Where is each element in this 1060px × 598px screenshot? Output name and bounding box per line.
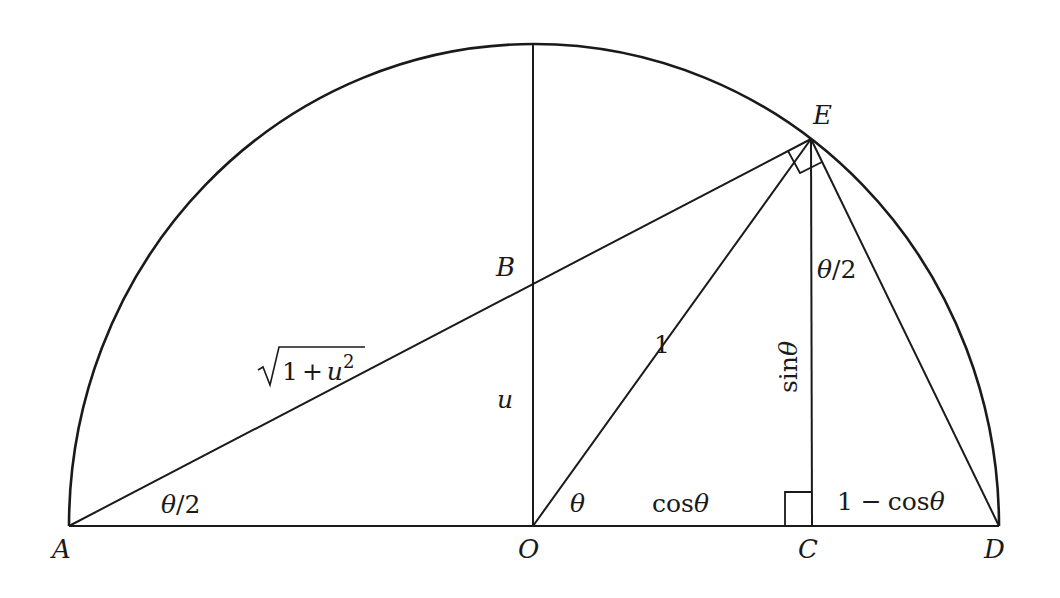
point-label-E: E [812, 100, 832, 130]
right-angle-marker-E [788, 151, 822, 173]
point-label-C: C [798, 534, 818, 564]
segment-AE [69, 139, 811, 526]
label-CE-sin: sinθ [774, 341, 803, 393]
segment-EC [811, 139, 812, 526]
segment-ED [811, 139, 999, 526]
angle-label-E: θ/2 [817, 255, 856, 284]
point-label-B: B [495, 252, 515, 282]
label-OC-cos: cosθ [652, 489, 709, 518]
label-OB-u: u [497, 385, 513, 414]
point-label-O: O [518, 534, 539, 564]
label-OE-1: 1 [654, 330, 670, 359]
point-label-D: D [983, 534, 1005, 564]
angle-label-O: θ [570, 489, 585, 518]
right-angle-marker-C [785, 492, 812, 526]
geometry-diagram: A O C D E B θ/2 θ θ/2 1+u2 u 1 sinθ cosθ… [0, 0, 1060, 598]
point-label-A: A [50, 534, 71, 564]
label-CD-1-minus-cos: 1 −cosθ [837, 487, 945, 516]
angle-label-A: θ/2 [161, 490, 200, 519]
svg-text:1+u2: 1+u2 [282, 351, 354, 386]
segment-OE [533, 139, 811, 526]
